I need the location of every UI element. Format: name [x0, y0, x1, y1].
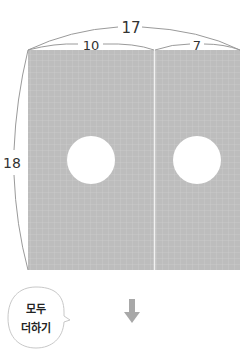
height-label: 18 — [3, 155, 21, 171]
speech-bubble-text: 모두 더하기 — [8, 300, 64, 338]
right-width-label: 7 — [193, 38, 201, 53]
arrow-down-icon — [124, 299, 140, 323]
total-width-bracket-right — [142, 27, 240, 50]
total-width-label: 17 — [121, 19, 140, 37]
left-width-bracket-right — [103, 44, 154, 50]
speech-bubble-line2: 더하기 — [8, 319, 64, 338]
height-bracket — [14, 50, 28, 150]
height-bracket-bottom — [14, 175, 28, 270]
left-width-label: 10 — [83, 38, 100, 53]
right-width-bracket — [155, 44, 190, 50]
left-hole — [67, 136, 115, 184]
speech-bubble-line1: 모두 — [8, 300, 64, 319]
right-hole — [173, 136, 221, 184]
